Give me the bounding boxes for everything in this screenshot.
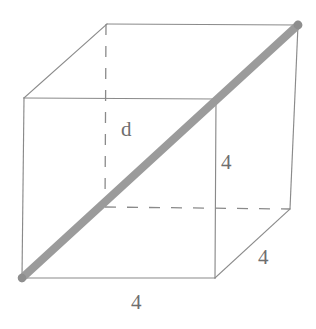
edge-back-right-vertical — [290, 25, 298, 209]
label-diagonal-d: d — [121, 119, 132, 140]
cube-space-diagonal — [18, 21, 303, 283]
cube-diagram-svg — [0, 0, 316, 329]
diagonal-endpoint-bottom-left — [18, 274, 26, 282]
diagonal-endpoint-top-right — [294, 21, 303, 30]
edge-front-top — [24, 98, 216, 99]
cube-diagram-figure: d 4 4 4 — [0, 0, 316, 329]
edge-front-left — [22, 98, 24, 278]
edge-receding-top-left — [24, 24, 107, 98]
edge-receding-bottom-right — [215, 209, 290, 278]
label-height-4: 4 — [221, 152, 232, 173]
hidden-edge-back-bottom — [105, 207, 290, 209]
edge-back-top — [107, 24, 298, 25]
label-width-4: 4 — [131, 292, 142, 313]
hidden-edge-back-left-vertical — [105, 24, 106, 207]
edge-front-right — [215, 99, 216, 278]
label-depth-4: 4 — [258, 247, 269, 268]
